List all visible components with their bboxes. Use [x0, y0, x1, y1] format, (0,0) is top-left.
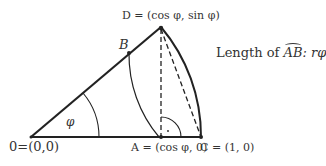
label-A: A = (cos φ, 0) — [131, 141, 207, 154]
arc-length-suffix: : rφ — [302, 45, 326, 60]
right-angle-marker — [161, 117, 181, 137]
arc-length-note: Length of AB: rφ — [216, 45, 326, 60]
arc-length-prefix: Length of — [216, 45, 284, 60]
label-C: C = (1, 0) — [200, 141, 254, 154]
label-B: B — [119, 37, 129, 52]
right-angle-dot — [167, 130, 169, 132]
arc-overline — [285, 43, 302, 48]
segment-DC-dashed — [161, 29, 201, 137]
point-D — [159, 26, 163, 30]
label-D: D = (cos φ, sin φ) — [122, 9, 220, 22]
label-O: 0=(0,0) — [9, 139, 59, 154]
angle-phi-arc — [83, 93, 99, 137]
label-phi: φ — [66, 115, 74, 129]
segment-OD — [31, 27, 161, 137]
arc-AB — [129, 53, 159, 137]
arc-name: AB — [284, 45, 303, 60]
point-C — [199, 135, 203, 139]
point-A — [159, 135, 163, 139]
